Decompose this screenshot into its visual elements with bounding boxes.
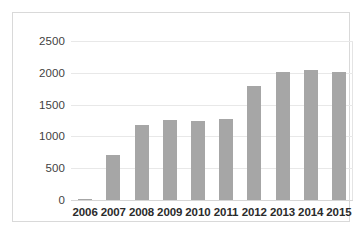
x-tick-label: 2009 — [157, 206, 182, 218]
x-tick-label: 2015 — [326, 206, 351, 218]
bar — [276, 72, 290, 200]
y-axis: 05001000150020002500 — [25, 41, 69, 200]
gridline — [71, 200, 353, 201]
bar — [78, 199, 92, 201]
x-tick-label: 2011 — [214, 206, 239, 218]
bar — [191, 121, 205, 201]
bar — [106, 155, 120, 200]
x-tick-label: 2010 — [185, 206, 210, 218]
y-tick-label: 2500 — [39, 35, 65, 47]
x-tick-label: 2008 — [129, 206, 154, 218]
bar — [219, 119, 233, 200]
bar — [304, 70, 318, 200]
bar-chart-figure: 05001000150020002500 2006200720082009201… — [0, 0, 362, 234]
y-tick-label: 1000 — [39, 130, 65, 142]
bar — [247, 86, 261, 200]
chart-frame: 05001000150020002500 2006200720082009201… — [12, 12, 350, 222]
y-tick-label: 500 — [46, 162, 66, 174]
x-tick-label: 2007 — [101, 206, 126, 218]
y-tick-label: 0 — [59, 194, 66, 206]
bar — [332, 72, 346, 200]
x-tick-label: 2014 — [298, 206, 323, 218]
bar — [163, 120, 177, 200]
x-tick-label: 2013 — [270, 206, 295, 218]
y-tick-label: 1500 — [39, 99, 65, 111]
bar — [135, 125, 149, 200]
bar-series — [71, 41, 353, 200]
x-tick-label: 2012 — [242, 206, 267, 218]
x-tick-label: 2006 — [73, 206, 98, 218]
y-tick-label: 2000 — [39, 67, 65, 79]
x-axis: 2006200720082009201020112012201320142015 — [71, 206, 353, 226]
